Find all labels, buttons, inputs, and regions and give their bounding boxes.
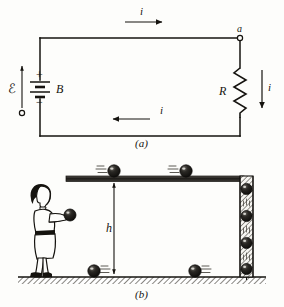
person-shoe-back: [30, 272, 42, 277]
resistor-symbol: [234, 68, 246, 118]
elevated-track: [66, 176, 244, 182]
person-head: [37, 186, 51, 208]
label-battery: B: [56, 83, 63, 95]
chute-ball-1: [241, 183, 252, 194]
held-ball: [64, 209, 76, 221]
terminal-node-lower: [19, 110, 24, 115]
physics-figure: [0, 0, 284, 307]
track-ball-1: [96, 165, 120, 177]
track-balls: [96, 165, 192, 177]
terminal-node-a: [237, 35, 242, 40]
label-height: h: [106, 222, 112, 234]
person-shoe-front: [43, 272, 52, 277]
label-current-top: i: [140, 6, 143, 17]
ground-ball-2: [189, 265, 211, 277]
circuit-loop-wires: [40, 38, 240, 136]
person: [30, 184, 76, 277]
ground: [18, 277, 266, 284]
label-current-bottom: i: [160, 105, 163, 116]
panel-b-analogy: [18, 165, 266, 284]
panel-a-caption: (a): [135, 138, 148, 149]
label-emf: ℰ: [8, 82, 16, 95]
label-current-right: i: [268, 82, 271, 93]
chute-ball-2: [241, 210, 252, 221]
ground-balls: [88, 265, 211, 277]
chute-ball-4: [241, 263, 252, 274]
panel-a-circuit: [19, 22, 262, 136]
person-hips: [35, 234, 56, 259]
emf-indicator: [19, 66, 24, 116]
track-ball-2: [168, 165, 192, 177]
chute-ball-3: [241, 237, 252, 248]
label-battery-plus: +: [36, 69, 43, 81]
panel-b-caption: (b): [135, 289, 148, 300]
ground-ball-1: [88, 265, 110, 277]
label-battery-minus: −: [36, 96, 43, 108]
label-resistor: R: [219, 85, 226, 97]
label-node-a: a: [237, 24, 242, 34]
